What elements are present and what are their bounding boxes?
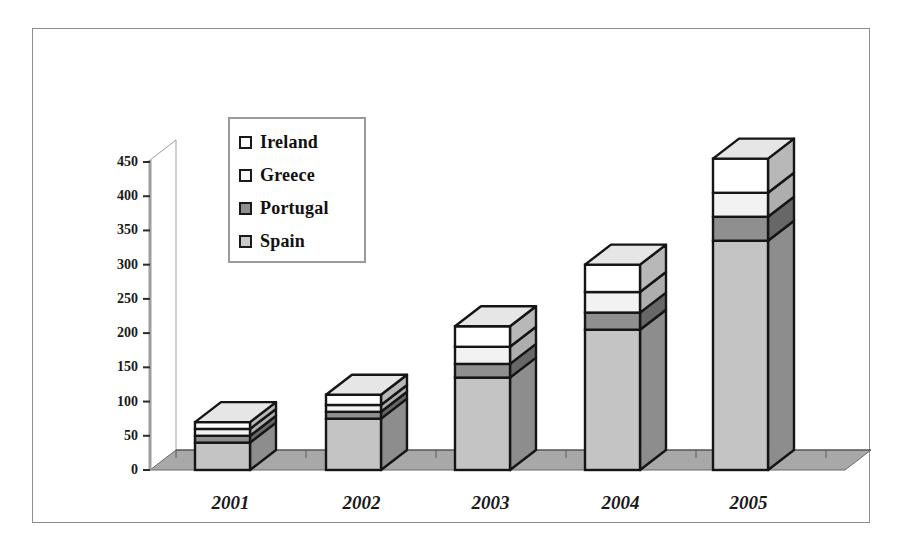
y-tick-50: 50	[98, 428, 138, 444]
bar-2004	[585, 245, 666, 470]
y-tick-450: 450	[98, 154, 138, 170]
legend-item-ireland: Ireland	[239, 126, 364, 159]
legend-item-greece: Greece	[239, 159, 364, 192]
x-tick-2004: 2004	[576, 492, 666, 514]
x-tick-2002: 2002	[317, 492, 407, 514]
bar-2003	[455, 306, 536, 470]
legend-item-portugal: Portugal	[239, 192, 364, 225]
y-tick-300: 300	[98, 257, 138, 273]
legend-swatch-portugal	[239, 202, 252, 215]
chart-root: 450400350300250200150100500 200120022003…	[0, 0, 903, 554]
plot-area: 450400350300250200150100500 200120022003…	[0, 0, 903, 554]
legend-label-portugal: Portugal	[260, 198, 329, 219]
bar-2005	[713, 139, 794, 470]
legend-swatch-greece	[239, 169, 252, 182]
bar-2002	[326, 375, 407, 470]
x-tick-2005: 2005	[704, 492, 794, 514]
y-tick-100: 100	[98, 394, 138, 410]
y-tick-0: 0	[98, 462, 138, 478]
legend-item-spain: Spain	[239, 225, 364, 258]
legend-label-ireland: Ireland	[260, 132, 318, 153]
x-tick-2001: 2001	[186, 492, 276, 514]
legend-label-greece: Greece	[260, 165, 315, 186]
x-tick-2003: 2003	[446, 492, 536, 514]
legend-swatch-spain	[239, 235, 252, 248]
y-tick-350: 350	[98, 222, 138, 238]
legend-label-spain: Spain	[260, 231, 305, 252]
bar-2001	[195, 402, 276, 470]
chart-legend: Ireland Greece Portugal Spain	[228, 117, 366, 263]
y-tick-250: 250	[98, 291, 138, 307]
y-tick-400: 400	[98, 188, 138, 204]
y-tick-150: 150	[98, 359, 138, 375]
legend-swatch-ireland	[239, 136, 252, 149]
y-tick-200: 200	[98, 325, 138, 341]
